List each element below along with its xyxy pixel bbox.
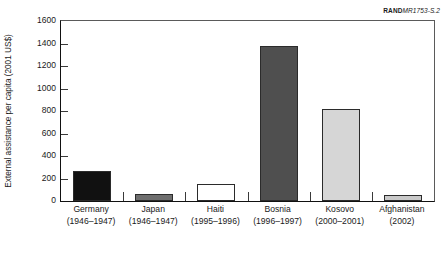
category-period: (2002) (371, 216, 433, 228)
category-period: (1946–1947) (60, 216, 122, 228)
y-tick-label-1400: 1400 (37, 38, 56, 48)
y-tick-label-600: 600 (42, 128, 56, 138)
category-name: Kosovo (309, 204, 371, 216)
y-axis-title: External assistance per capita (2001 US$… (0, 18, 16, 204)
rand-logo-text: RAND (383, 7, 402, 14)
document-number: MR1753-S.2 (403, 7, 441, 14)
y-tick-mark-800 (61, 111, 68, 112)
x-category-label-kosovo: Kosovo(2000–2001) (309, 204, 371, 227)
y-tick-label-200: 200 (42, 173, 56, 183)
category-name: Bosnia (247, 204, 309, 216)
x-category-label-haiti: Haiti(1995–1996) (184, 204, 246, 227)
bar-kosovo (322, 109, 360, 201)
y-tick-mark-1200 (61, 66, 68, 67)
x-tick-mark-4 (310, 192, 311, 201)
figure-identifier: RANDMR1753-S.2 (383, 7, 440, 14)
category-period: (1946–1947) (122, 216, 184, 228)
x-tick-mark-5 (372, 192, 373, 201)
y-tick-mark-1000 (61, 89, 68, 90)
y-tick-mark-400 (61, 156, 68, 157)
x-category-label-japan: Japan(1946–1947) (122, 204, 184, 227)
y-tick-label-0: 0 (51, 195, 56, 205)
x-category-label-bosnia: Bosnia(1996–1997) (247, 204, 309, 227)
x-category-label-germany: Germany(1946–1947) (60, 204, 122, 227)
bar-germany (73, 171, 111, 201)
y-tick-mark-1400 (61, 44, 68, 45)
y-axis-title-text: External assistance per capita (2001 US$… (3, 34, 13, 187)
category-name: Japan (122, 204, 184, 216)
category-period: (1995–1996) (184, 216, 246, 228)
y-tick-label-800: 800 (42, 105, 56, 115)
category-name: Afghanistan (371, 204, 433, 216)
plot-area (60, 20, 435, 202)
x-axis-category-labels: Germany(1946–1947)Japan(1946–1947)Haiti(… (60, 204, 435, 248)
category-period: (1996–1997) (247, 216, 309, 228)
y-tick-mark-200 (61, 179, 68, 180)
category-period: (2000–2001) (309, 216, 371, 228)
x-tick-mark-2 (185, 192, 186, 201)
x-category-label-afghanistan: Afghanistan(2002) (371, 204, 433, 227)
bar-afghanistan (384, 195, 422, 201)
category-name: Haiti (184, 204, 246, 216)
x-tick-mark-1 (123, 192, 124, 201)
chart-figure: RANDMR1753-S.2 External assistance per c… (0, 0, 446, 254)
y-tick-label-400: 400 (42, 150, 56, 160)
y-axis-tick-labels: 02004006008001000120014001600 (16, 18, 60, 204)
x-tick-mark-3 (248, 192, 249, 201)
y-tick-label-1600: 1600 (37, 15, 56, 25)
bar-japan (135, 194, 173, 201)
bar-bosnia (260, 46, 298, 201)
category-name: Germany (60, 204, 122, 216)
y-tick-label-1200: 1200 (37, 60, 56, 70)
y-tick-mark-600 (61, 134, 68, 135)
y-tick-label-1000: 1000 (37, 83, 56, 93)
bar-haiti (197, 184, 235, 201)
